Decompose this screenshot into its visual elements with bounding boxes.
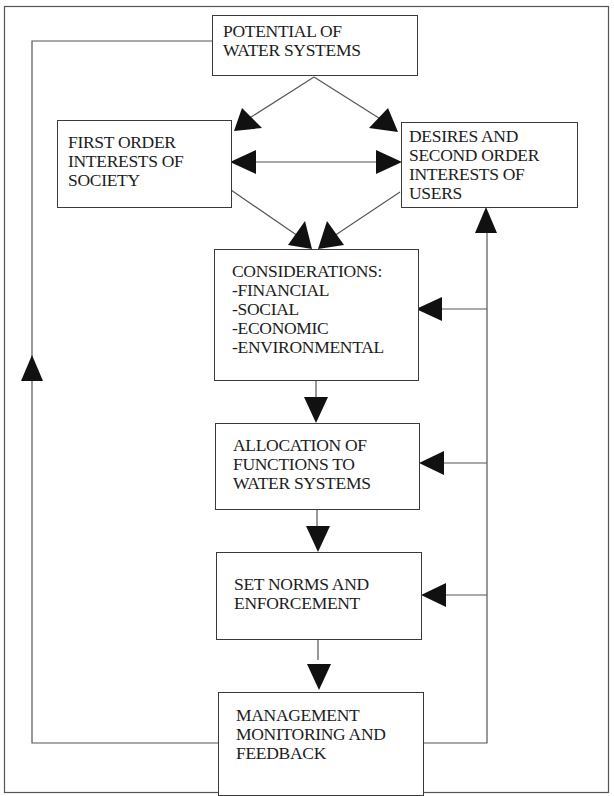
- box-considerations: CONSIDERATIONS: -FINANCIAL -SOCIAL -ECON…: [214, 249, 419, 381]
- converging-lines: [231, 190, 400, 236]
- box-allocation-of-functions: ALLOCATION OF FUNCTIONS TO WATER SYSTEMS: [215, 423, 420, 510]
- box-potential-of-water-systems: POTENTIAL OF WATER SYSTEMS: [212, 15, 418, 76]
- box-text-line: SET NORMS AND: [234, 575, 421, 594]
- box-text-line: ENFORCEMENT: [234, 594, 421, 613]
- box-text-line: INTERESTS OF: [409, 165, 577, 184]
- box-text-line: CONSIDERATIONS:: [232, 262, 418, 281]
- arrow-to-first-order-icon: [234, 108, 262, 131]
- left-feedback-up-arrow-icon: [21, 355, 43, 381]
- potential-branch-lines: [248, 77, 382, 120]
- box-text-line: USERS: [409, 184, 577, 203]
- box-text-line: -FINANCIAL: [232, 281, 418, 300]
- arrow-from-first-order-icon: [288, 221, 312, 249]
- arrow-from-desires-icon: [318, 221, 344, 249]
- feedback-to-desires-arrow-icon: [475, 207, 497, 233]
- box-set-norms-enforcement: SET NORMS AND ENFORCEMENT: [216, 552, 422, 640]
- box-text-line: -SOCIAL: [232, 300, 418, 319]
- box-first-order-interests: FIRST ORDER INTERESTS OF SOCIETY: [57, 120, 232, 208]
- arrow-to-management-icon: [307, 664, 331, 690]
- box-management-monitoring-feedback: MANAGEMENT MONITORING AND FEEDBACK: [218, 692, 424, 796]
- box-text-line: FIRST ORDER: [68, 133, 231, 152]
- feedback-to-allocation-arrow-icon: [419, 451, 444, 475]
- arrow-to-allocation-icon: [304, 397, 328, 423]
- box-text-line: INTERESTS OF: [68, 152, 231, 171]
- feedback-to-norms-arrow-icon: [421, 583, 446, 607]
- box-text-line: MANAGEMENT: [236, 706, 423, 725]
- box-text-line: DESIRES AND: [409, 127, 577, 146]
- box-text-line: -ECONOMIC: [232, 319, 418, 338]
- box-text-line: WATER SYSTEMS: [223, 41, 417, 60]
- arrow-to-desires-right-icon: [376, 150, 402, 174]
- arrow-to-desires-icon: [369, 108, 398, 132]
- arrow-to-first-order-left-icon: [230, 150, 256, 174]
- box-text-line: FUNCTIONS TO: [233, 455, 419, 474]
- box-text-line: SOCIETY: [68, 171, 231, 190]
- box-desires-second-order-interests: DESIRES AND SECOND ORDER INTERESTS OF US…: [401, 122, 578, 208]
- box-text-line: SECOND ORDER: [409, 146, 577, 165]
- box-text-line: ALLOCATION OF: [233, 436, 419, 455]
- box-text-line: POTENTIAL OF: [223, 22, 417, 41]
- box-text-line: WATER SYSTEMS: [233, 474, 419, 493]
- box-text-line: MONITORING AND: [236, 725, 423, 744]
- arrow-to-norms-icon: [306, 526, 330, 552]
- box-text-line: -ENVIRONMENTAL: [232, 338, 418, 357]
- feedback-to-considerations-arrow-icon: [416, 297, 442, 321]
- box-text-line: FEEDBACK: [236, 744, 423, 763]
